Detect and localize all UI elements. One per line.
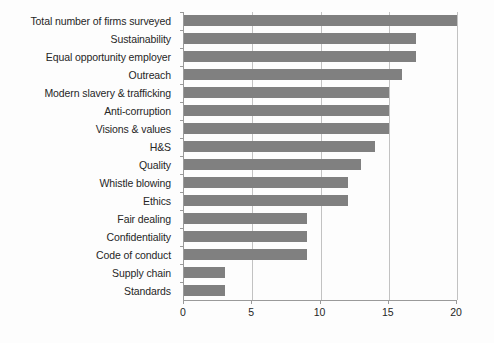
bar-row bbox=[184, 138, 457, 156]
x-axis-tick bbox=[388, 300, 389, 304]
category-label: Supply chain bbox=[112, 264, 171, 282]
category-label: Confidentiality bbox=[107, 228, 171, 246]
x-tick-label: 5 bbox=[236, 306, 266, 318]
category-label: Sustainability bbox=[111, 30, 171, 48]
bar-row bbox=[184, 282, 457, 300]
bar bbox=[184, 69, 402, 80]
x-tick-label: 10 bbox=[305, 306, 335, 318]
y-axis-tick bbox=[180, 84, 184, 85]
x-tick-label: 20 bbox=[441, 306, 471, 318]
y-axis-tick bbox=[180, 30, 184, 31]
y-axis-tick bbox=[180, 66, 184, 67]
bar-row bbox=[184, 210, 457, 228]
y-axis-tick bbox=[180, 246, 184, 247]
bar-row bbox=[184, 12, 457, 30]
bar-row bbox=[184, 48, 457, 66]
bar bbox=[184, 105, 389, 116]
x-axis-tick bbox=[183, 300, 184, 304]
y-axis-tick bbox=[180, 120, 184, 121]
category-label: Whistle blowing bbox=[100, 174, 171, 192]
category-label: Modern slavery & trafficking bbox=[44, 84, 171, 102]
bar bbox=[184, 123, 389, 134]
bar bbox=[184, 159, 361, 170]
plot-area bbox=[183, 12, 458, 300]
y-axis-tick bbox=[180, 192, 184, 193]
y-axis-tick bbox=[180, 228, 184, 229]
y-axis-tick bbox=[180, 156, 184, 157]
bar bbox=[184, 33, 416, 44]
x-axis-tick bbox=[456, 300, 457, 304]
x-axis-tick bbox=[251, 300, 252, 304]
bar-row bbox=[184, 30, 457, 48]
bar bbox=[184, 285, 225, 296]
bar bbox=[184, 51, 416, 62]
bar bbox=[184, 213, 307, 224]
y-axis-tick bbox=[180, 138, 184, 139]
category-label: Code of conduct bbox=[96, 246, 171, 264]
bar-row bbox=[184, 228, 457, 246]
x-tick-label: 0 bbox=[168, 306, 198, 318]
category-label: Anti-corruption bbox=[104, 102, 171, 120]
bar-row bbox=[184, 174, 457, 192]
bar bbox=[184, 249, 307, 260]
bar-row bbox=[184, 102, 457, 120]
category-label: Equal opportunity employer bbox=[46, 48, 171, 66]
category-label: Outreach bbox=[129, 66, 171, 84]
bar bbox=[184, 15, 457, 26]
bar-row bbox=[184, 192, 457, 210]
y-axis-tick bbox=[180, 282, 184, 283]
y-axis-tick bbox=[180, 12, 184, 13]
x-axis-tick bbox=[320, 300, 321, 304]
y-axis-tick bbox=[180, 210, 184, 211]
bar-row bbox=[184, 246, 457, 264]
y-axis-tick bbox=[180, 102, 184, 103]
category-label: Total number of firms surveyed bbox=[30, 12, 171, 30]
bar bbox=[184, 267, 225, 278]
category-label-column: Total number of firms surveyedSustainabi… bbox=[0, 12, 177, 300]
category-label: Standards bbox=[124, 282, 171, 300]
bar-row bbox=[184, 264, 457, 282]
bar-row bbox=[184, 156, 457, 174]
bar bbox=[184, 87, 389, 98]
bar-row bbox=[184, 84, 457, 102]
x-tick-label: 15 bbox=[373, 306, 403, 318]
category-label: Ethics bbox=[143, 192, 171, 210]
category-label: Quality bbox=[139, 156, 171, 174]
bar-row bbox=[184, 120, 457, 138]
bar-row bbox=[184, 66, 457, 84]
bar bbox=[184, 231, 307, 242]
y-axis-tick bbox=[180, 48, 184, 49]
bar-chart: Total number of firms surveyedSustainabi… bbox=[0, 0, 494, 343]
gridline-20 bbox=[457, 12, 458, 300]
category-label: Fair dealing bbox=[117, 210, 171, 228]
y-axis-tick bbox=[180, 174, 184, 175]
bar bbox=[184, 177, 348, 188]
bar bbox=[184, 195, 348, 206]
bar bbox=[184, 141, 375, 152]
category-label: H&S bbox=[150, 138, 171, 156]
category-label: Visions & values bbox=[96, 120, 171, 138]
y-axis-tick bbox=[180, 264, 184, 265]
